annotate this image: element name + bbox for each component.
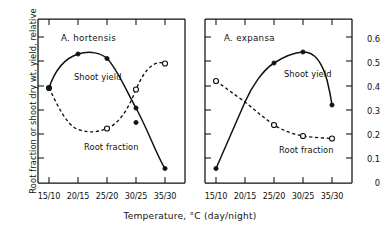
left-shoot-yield-series	[47, 52, 167, 171]
left-root-fraction-series	[47, 61, 168, 132]
right-shoot-yield-series	[214, 50, 334, 171]
chart-figure: Root fraction or shoot dry wt. yield, re…	[0, 0, 380, 235]
left-panel-axes	[38, 19, 185, 183]
chart-canvas	[0, 0, 380, 235]
right-panel-axes	[205, 19, 352, 183]
